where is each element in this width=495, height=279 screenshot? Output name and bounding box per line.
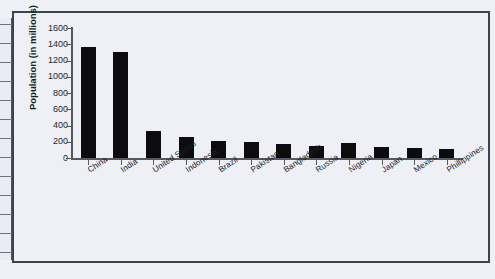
bars-layer (0, 0, 495, 160)
y-tick-mark (66, 158, 71, 159)
bar (341, 143, 356, 158)
bar (407, 148, 422, 158)
y-tick-mark (66, 142, 71, 143)
y-tick-mark (66, 28, 71, 29)
y-tick-mark (66, 44, 71, 45)
bar (439, 149, 454, 158)
x-tick-mark (186, 160, 187, 165)
x-tick-mark (447, 160, 448, 165)
x-tick-mark (284, 160, 285, 165)
bar (146, 131, 161, 158)
x-tick-mark (349, 160, 350, 165)
x-tick-mark (251, 160, 252, 165)
x-tick-mark (382, 160, 383, 165)
bar (113, 52, 128, 158)
bar (81, 47, 96, 158)
y-tick-mark (66, 126, 71, 127)
x-tick-mark (219, 160, 220, 165)
x-tick-mark (121, 160, 122, 165)
y-tick-mark (66, 109, 71, 110)
bar (374, 147, 389, 158)
x-tick-mark (316, 160, 317, 165)
x-tick-mark (414, 160, 415, 165)
x-tick-mark (88, 160, 89, 165)
y-tick-mark (66, 93, 71, 94)
screenshot-page: Population (in millions) 160014001200100… (0, 0, 495, 279)
y-tick-mark (66, 77, 71, 78)
bar (244, 142, 259, 158)
y-tick-mark (66, 61, 71, 62)
x-tick-mark (153, 160, 154, 165)
bar-chart: Population (in millions) 160014001200100… (0, 0, 495, 279)
